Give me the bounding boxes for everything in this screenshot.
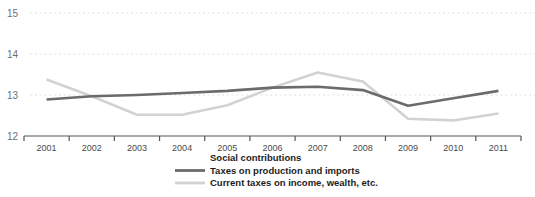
legend-label-0: Social contributions	[210, 152, 301, 163]
legend-label-2: Current taxes on income, wealth, etc.	[210, 177, 378, 188]
y-axis-label-12: 12	[7, 131, 19, 142]
x-axis-label-2003: 2003	[127, 143, 147, 153]
x-axis-label-2004: 2004	[172, 143, 192, 153]
x-axis-label-2011: 2011	[489, 143, 508, 153]
x-axis-label-2007: 2007	[308, 143, 328, 153]
chart-canvas: 12131415 2001200220032004200520062007200…	[0, 0, 535, 197]
y-axis-tick-labels: 12131415	[7, 8, 19, 142]
series-layer	[47, 72, 499, 120]
line-chart: 12131415 2001200220032004200520062007200…	[0, 0, 535, 197]
series-line-taxes-production-imports	[47, 87, 499, 106]
gridlines	[30, 13, 535, 95]
x-axis-label-2010: 2010	[443, 143, 463, 153]
x-axis-label-2008: 2008	[353, 143, 373, 153]
y-axis-label-14: 14	[7, 49, 19, 60]
x-axis-label-2002: 2002	[82, 143, 102, 153]
y-axis-label-13: 13	[7, 90, 19, 101]
y-axis-label-15: 15	[7, 8, 19, 19]
legend-label-1: Taxes on production and imports	[210, 165, 360, 176]
x-axis	[24, 136, 521, 141]
chart-legend: Social contributionsTaxes on production …	[175, 152, 378, 188]
x-axis-label-2009: 2009	[398, 143, 418, 153]
x-axis-label-2001: 2001	[37, 143, 57, 153]
